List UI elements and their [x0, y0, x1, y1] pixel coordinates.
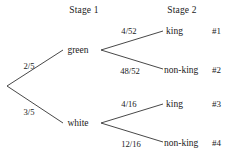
outcome-tag-2: #2 — [212, 65, 221, 75]
outcome-tag-1: #1 — [212, 26, 221, 36]
edge-root-to-green — [7, 50, 63, 86]
outcome-tag-3: #3 — [212, 99, 221, 109]
stage-1-header: Stage 1 — [69, 5, 99, 15]
tree-edges — [0, 0, 232, 155]
probability-tree-diagram: Stage 1 Stage 2 green white 2/5 3/5 4/52… — [0, 0, 232, 155]
probability-green-king: 4/52 — [121, 26, 136, 36]
outcome-green-king: king — [166, 26, 183, 36]
edge-root-to-white — [7, 86, 63, 123]
stage-2-header: Stage 2 — [167, 5, 197, 15]
probability-white-king: 4/16 — [121, 99, 136, 109]
probability-white-non-king: 12/16 — [121, 139, 141, 149]
outcome-green-non-king: non-king — [164, 65, 198, 75]
probability-white: 3/5 — [24, 107, 35, 117]
probability-green-non-king: 48/52 — [120, 66, 140, 76]
node-white: white — [67, 118, 88, 128]
outcome-white-king: king — [166, 99, 183, 109]
probability-green: 2/5 — [24, 61, 35, 71]
node-green: green — [67, 45, 88, 55]
outcome-tag-4: #4 — [212, 138, 221, 148]
outcome-white-non-king: non-king — [164, 138, 198, 148]
